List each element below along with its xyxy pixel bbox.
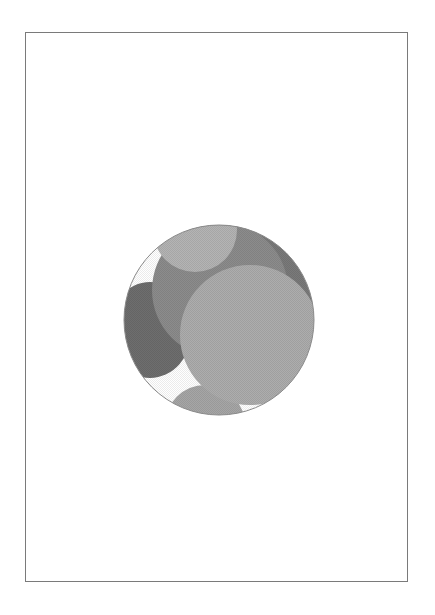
circle-illustration bbox=[120, 220, 320, 422]
circle-figure bbox=[120, 220, 320, 422]
dither-texture bbox=[120, 220, 320, 422]
